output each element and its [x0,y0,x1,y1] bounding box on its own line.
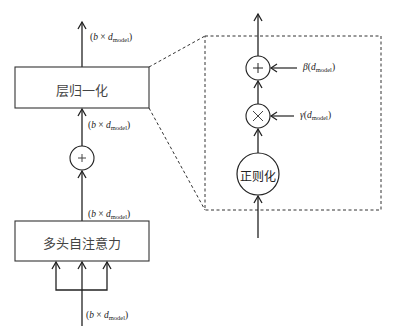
output-arrow [78,22,86,67]
gamma-label: γ(dmodel) [300,111,331,122]
beta-label: β(dmodel) [303,63,335,74]
scale-to-shift-arrow [254,81,262,104]
gamma-arrow [271,112,294,120]
norm-input-arrow [78,109,86,146]
dim-label-after-add: (b × dmodel) [88,121,130,132]
dim-label-after-attention: (b × dmodel) [88,210,130,221]
panel-output-arrow [254,14,262,56]
zoom-panel-border [205,36,381,210]
add-input-arrow [78,171,86,221]
norm-to-scale-arrow [254,129,262,153]
beta-arrow [271,64,297,72]
diagram-canvas [0,0,393,334]
panel-input-arrow [254,196,262,238]
zoom-connector-lines [149,36,205,210]
dim-label-output: (b × dmodel) [90,33,132,44]
normalize-label: 正则化 [237,167,279,184]
dim-label-input: (b × dmodel) [86,311,128,322]
multi-head-attention-label: 多头自注意力 [15,233,149,252]
layer-norm-label: 层归一化 [15,80,149,99]
